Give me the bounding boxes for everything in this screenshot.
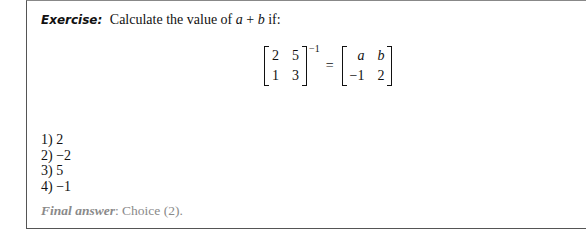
final-answer: Final answer: Choice (2).: [41, 203, 183, 219]
exercise-frame: [26, 0, 586, 229]
final-answer-text: : Choice (2).: [115, 203, 183, 218]
answer-options: 1) 2 2) −2 3) 5 4) −1: [41, 132, 71, 194]
equals-sign: =: [326, 58, 334, 74]
exercise-text-before: Calculate the value of: [110, 12, 236, 27]
matrix-cell: 5: [292, 48, 299, 64]
exercise-text-after: if:: [265, 12, 281, 27]
matrix-cell: 3: [292, 68, 299, 84]
right-bracket: [302, 46, 307, 86]
matrix-equation: 2 5 1 3 −1 = a b −1 2: [264, 42, 392, 90]
exercise-statement: Exercise: Calculate the value of a + b i…: [41, 12, 281, 28]
matrix-cell: 2: [272, 48, 279, 64]
matrix-cell: 2: [377, 68, 384, 84]
option-1: 1) 2: [41, 132, 71, 148]
matrix-cell: −1: [350, 68, 365, 84]
left-matrix: 2 5 1 3: [264, 46, 307, 86]
inverse-exponent: −1: [309, 43, 320, 54]
exercise-label: Exercise:: [41, 13, 102, 27]
matrix-cell: a: [350, 48, 365, 64]
final-answer-label: Final answer: [41, 203, 115, 218]
variable-a: a: [236, 12, 243, 27]
variable-b: b: [258, 12, 265, 27]
right-matrix: a b −1 2: [342, 46, 393, 86]
plus-sign: +: [243, 12, 258, 27]
matrix-cell: 1: [272, 68, 279, 84]
option-3: 3) 5: [41, 163, 71, 179]
option-2: 2) −2: [41, 148, 71, 164]
option-4: 4) −1: [41, 179, 71, 195]
matrix-cell: b: [377, 48, 384, 64]
right-bracket: [387, 46, 392, 86]
